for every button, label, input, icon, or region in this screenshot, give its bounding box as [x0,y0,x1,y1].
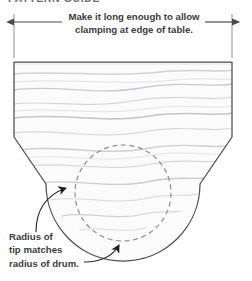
figure-container: PATTERN GUIDE [0,0,252,281]
dimension-note-line-2: clamping at edge of table. [66,24,202,37]
tip-radius-note-line-3: radius of drum. [9,257,113,270]
tip-radius-note: Radius of tip matches radius of drum. [9,230,113,270]
dimension-note-line-1: Make it long enough to allow [66,11,202,24]
tip-radius-note-line-2: tip matches [9,243,113,256]
tip-radius-note-line-1: Radius of [9,230,113,243]
dimension-note: Make it long enough to allow clamping at… [66,11,202,36]
